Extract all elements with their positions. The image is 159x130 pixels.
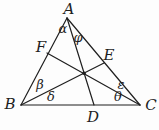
label-vertex-a: A	[62, 0, 75, 18]
triangle-diagram: A B C D E F α φ β δ ε θ	[0, 0, 159, 130]
label-vertex-b: B	[3, 95, 15, 113]
label-vertex-c: C	[145, 96, 157, 114]
geometry-figure: A B C D E F α φ β δ ε θ	[0, 0, 159, 130]
label-angle-beta: β	[35, 77, 44, 92]
label-angle-alpha: α	[59, 21, 68, 36]
intersection-point-dot	[82, 71, 86, 75]
label-point-e: E	[103, 46, 115, 64]
label-angle-phi: φ	[73, 30, 83, 45]
label-point-f: F	[35, 38, 47, 56]
cevian-cf	[47, 53, 140, 105]
label-angle-theta: θ	[114, 89, 122, 104]
label-point-d: D	[86, 108, 99, 126]
label-angle-delta: δ	[47, 89, 55, 104]
